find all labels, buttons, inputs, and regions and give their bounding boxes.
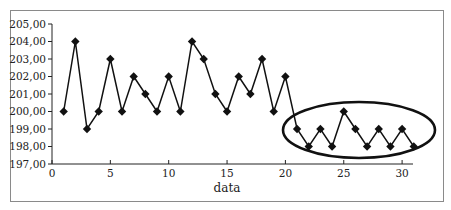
- y-tick-label: 203,00: [9, 53, 46, 65]
- y-tick-label: 202,00: [9, 70, 46, 82]
- y-tick-label: 201,00: [9, 88, 46, 100]
- x-tick-label: 5: [107, 167, 114, 179]
- diamond-marker: [235, 72, 243, 80]
- y-tick-label: 198,00: [9, 140, 46, 152]
- diamond-marker: [270, 107, 278, 115]
- diamond-marker: [258, 55, 266, 63]
- series-line: [64, 42, 414, 147]
- diamond-marker: [129, 72, 137, 80]
- diamond-marker: [165, 72, 173, 80]
- diamond-marker: [351, 125, 359, 133]
- diamond-marker: [375, 125, 383, 133]
- diamond-marker: [293, 125, 301, 133]
- y-tick-label: 197,00: [9, 158, 46, 170]
- diamond-marker: [281, 72, 289, 80]
- y-tick-label: 204,00: [9, 35, 46, 47]
- y-tick-label: 199,00: [9, 123, 46, 135]
- diamond-marker: [246, 90, 254, 98]
- x-axis: 051015202530: [49, 160, 413, 179]
- diamond-marker: [188, 37, 196, 45]
- x-tick-label: 25: [337, 167, 350, 179]
- y-axis: 197,00198,00199,00200,00201,00202,00203,…: [9, 18, 52, 170]
- x-tick-label: 10: [162, 167, 175, 179]
- diamond-marker: [106, 55, 114, 63]
- x-tick-label: 15: [220, 167, 233, 179]
- data-series: [59, 37, 418, 150]
- diamond-marker: [118, 107, 126, 115]
- diamond-marker: [59, 107, 67, 115]
- diamond-marker: [200, 55, 208, 63]
- highlight-ellipse: [283, 102, 435, 158]
- diamond-marker: [316, 125, 324, 133]
- y-tick-label: 200,00: [9, 105, 46, 117]
- diamond-marker: [141, 90, 149, 98]
- diamond-marker: [363, 142, 371, 150]
- diamond-marker: [328, 142, 336, 150]
- diamond-marker: [211, 90, 219, 98]
- x-tick-label: 20: [279, 167, 292, 179]
- diamond-marker: [71, 37, 79, 45]
- diamond-marker: [398, 125, 406, 133]
- x-tick-label: 30: [395, 167, 408, 179]
- diamond-marker: [83, 125, 91, 133]
- diamond-marker: [94, 107, 102, 115]
- line-chart: 197,00198,00199,00200,00201,00202,00203,…: [0, 0, 451, 210]
- diamond-marker: [176, 107, 184, 115]
- y-tick-label: 205,00: [9, 18, 46, 30]
- diamond-marker: [223, 107, 231, 115]
- diamond-marker: [340, 107, 348, 115]
- diamond-marker: [153, 107, 161, 115]
- x-tick-label: 0: [49, 167, 56, 179]
- x-axis-title: data: [214, 181, 241, 195]
- diamond-marker: [386, 142, 394, 150]
